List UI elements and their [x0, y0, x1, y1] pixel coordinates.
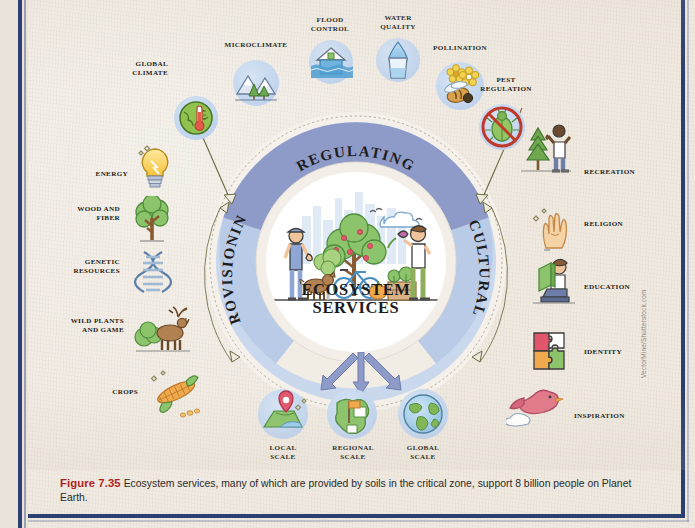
service-icon-energy[interactable]: [133, 143, 177, 191]
scale-label-regional: Regional Scale: [316, 444, 390, 461]
service-label-religion: Religion: [584, 220, 664, 229]
service-icon-microclimate[interactable]: [233, 60, 279, 106]
scale-label-global: Global Scale: [389, 444, 457, 461]
page-gutter-rule: [18, 0, 22, 528]
panel-rule-bottom: [28, 514, 685, 518]
center-title: Ecosystem Services: [206, 281, 506, 317]
image-credit-watermark: VectorMine/Shutterstock.com: [640, 289, 647, 378]
service-icon-water-quality[interactable]: [376, 38, 420, 82]
service-label-identity: Identity: [584, 348, 664, 357]
service-label-crops: Crops: [86, 388, 138, 397]
service-icon-genetic-resources[interactable]: [131, 248, 175, 296]
service-label-wood-and-fiber: Wood and Fiber: [58, 205, 120, 222]
ecosystem-services-infographic: REGULATING PROVISIONING CULTURAL: [28, 0, 685, 470]
scale-icon-global[interactable]: [398, 389, 448, 439]
figure-caption: Figure 7.35 Ecosystem services, many of …: [60, 476, 638, 506]
service-icon-recreation[interactable]: [517, 120, 575, 176]
panel-rule-right-secondary: [687, 0, 689, 522]
service-label-energy: Energy: [86, 170, 128, 179]
service-icon-global-climate[interactable]: [174, 96, 218, 140]
service-label-pest-regulation: Pest Regulation: [468, 76, 544, 93]
service-icon-crops[interactable]: [146, 368, 208, 420]
service-icon-wild-plants-and-game[interactable]: [132, 303, 194, 355]
service-label-pollination: Pollination: [424, 44, 496, 53]
service-label-wild-plants-and-game: Wild Plants and Game: [48, 317, 124, 334]
service-icon-inspiration[interactable]: [506, 384, 566, 436]
scale-icon-local[interactable]: [258, 389, 308, 439]
service-icon-education[interactable]: [525, 253, 581, 309]
scale-label-local: Local Scale: [250, 444, 316, 461]
service-label-recreation: Recreation: [584, 168, 664, 177]
service-icon-wood-and-fiber[interactable]: [130, 196, 174, 244]
service-icon-religion[interactable]: [528, 204, 580, 252]
service-icon-identity[interactable]: [528, 327, 576, 375]
center-title-line2: Services: [206, 299, 506, 317]
service-label-education: Education: [584, 283, 664, 292]
figure-caption-text: Ecosystem services, many of which are pr…: [60, 478, 631, 503]
panel-rule-bottom-secondary: [28, 520, 689, 522]
service-label-global-climate: Global Climate: [106, 60, 168, 77]
service-label-genetic-resources: Genetic Resources: [50, 258, 120, 275]
service-label-microclimate: Microclimate: [216, 41, 296, 50]
figure-number: Figure 7.35: [60, 477, 121, 489]
service-label-water-quality: Water Quality: [358, 14, 438, 31]
center-title-line1: Ecosystem: [206, 281, 506, 299]
service-label-inspiration: Inspiration: [574, 412, 658, 421]
page-gutter-rule-secondary: [24, 0, 26, 528]
book-page: REGULATING PROVISIONING CULTURAL: [0, 0, 695, 528]
scale-icon-regional[interactable]: [327, 389, 377, 439]
service-icon-flood-control[interactable]: [309, 40, 353, 84]
